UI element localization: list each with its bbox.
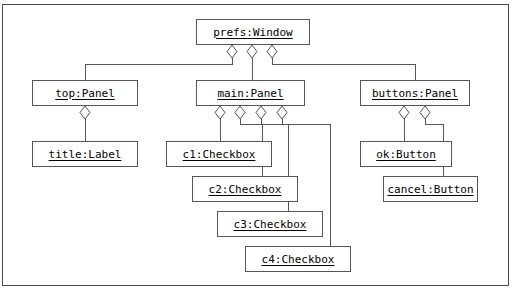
object-node-label: c3:Checkbox — [234, 218, 307, 231]
object-node-c1[interactable]: c1:Checkbox — [166, 141, 272, 167]
object-node-label: title:Label — [49, 148, 122, 161]
object-node-label: c1:Checkbox — [183, 148, 256, 161]
object-node-ok[interactable]: ok:Button — [360, 141, 452, 167]
object-node-top[interactable]: top:Panel — [32, 80, 138, 106]
object-node-title[interactable]: title:Label — [32, 141, 138, 167]
diagram-canvas: prefs:Windowtop:Panelmain:Panelbuttons:P… — [0, 0, 514, 295]
object-node-c2[interactable]: c2:Checkbox — [192, 176, 298, 202]
object-node-label: ok:Button — [376, 148, 436, 161]
object-node-c4[interactable]: c4:Checkbox — [245, 246, 351, 272]
object-node-label: top:Panel — [55, 87, 115, 100]
object-node-label: c2:Checkbox — [209, 183, 282, 196]
object-node-label: main:Panel — [217, 87, 283, 100]
object-node-label: buttons:Panel — [372, 87, 458, 100]
object-node-label: prefs:Window — [213, 26, 292, 39]
object-node-c3[interactable]: c3:Checkbox — [217, 211, 323, 237]
object-node-prefs[interactable]: prefs:Window — [196, 19, 310, 45]
object-node-buttons[interactable]: buttons:Panel — [360, 80, 470, 106]
object-node-label: c4:Checkbox — [262, 253, 335, 266]
object-node-label: cancel:Button — [387, 183, 473, 196]
object-node-cancel[interactable]: cancel:Button — [383, 176, 478, 202]
object-node-main[interactable]: main:Panel — [196, 80, 305, 106]
